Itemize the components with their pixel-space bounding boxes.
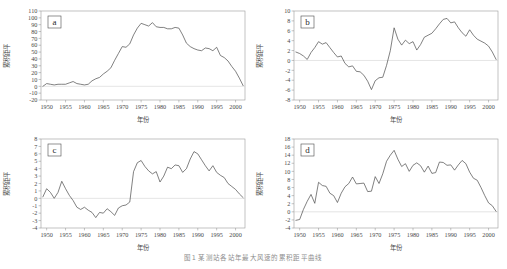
plot-frame bbox=[294, 11, 498, 100]
x-tick-label: 1980 bbox=[407, 103, 419, 110]
y-tick-label: 12 bbox=[284, 159, 290, 166]
y-tick-label: 4 bbox=[34, 165, 37, 172]
y-tick-label: -4 bbox=[32, 224, 37, 231]
x-tick-label: 1955 bbox=[59, 103, 71, 110]
y-tick-label: 0 bbox=[34, 83, 37, 90]
x-tick-label: 1975 bbox=[135, 231, 147, 238]
x-tick-label: 1990 bbox=[445, 231, 457, 238]
x-tick-label: 1985 bbox=[173, 103, 185, 110]
x-tick-label: 1960 bbox=[78, 231, 90, 238]
y-tick-label: 80 bbox=[31, 28, 37, 35]
x-tick-label: 2000 bbox=[229, 103, 241, 110]
x-tick-label: 1995 bbox=[210, 231, 222, 238]
x-tick-label: 1965 bbox=[97, 103, 109, 110]
y-tick-label: -8 bbox=[285, 96, 290, 103]
data-series-line bbox=[43, 23, 243, 87]
y-tick-label: 18 bbox=[284, 135, 290, 142]
x-tick-label: 1950 bbox=[40, 103, 52, 110]
y-tick-label: 10 bbox=[284, 7, 290, 14]
plot-frame bbox=[41, 139, 245, 228]
x-tick-label: 1990 bbox=[192, 103, 204, 110]
y-tick-label: 0 bbox=[34, 195, 37, 202]
x-tick-label: 1985 bbox=[173, 231, 185, 238]
panel-letter: c bbox=[53, 145, 57, 155]
y-tick-label: 90 bbox=[31, 21, 37, 28]
y-tick-label: 1 bbox=[34, 187, 37, 194]
x-tick-label: 1950 bbox=[293, 231, 305, 238]
x-tick-label: 1995 bbox=[463, 231, 475, 238]
x-tick-label: 1965 bbox=[97, 231, 109, 238]
y-tick-label: -20 bbox=[29, 96, 37, 103]
x-tick-label: 1990 bbox=[192, 231, 204, 238]
y-tick-label: 3 bbox=[34, 172, 37, 179]
x-tick-label: 1980 bbox=[154, 231, 166, 238]
y-tick-label: 110 bbox=[28, 7, 37, 14]
y-tick-label: 0 bbox=[287, 57, 290, 64]
y-tick-label: 14 bbox=[284, 151, 290, 158]
y-tick-label: 0 bbox=[287, 208, 290, 215]
y-tick-label: 8 bbox=[287, 176, 290, 183]
y-tick-label: 2 bbox=[287, 200, 290, 207]
y-tick-label: -2 bbox=[285, 67, 290, 74]
x-tick-label: 1985 bbox=[426, 103, 438, 110]
y-tick-label: -2 bbox=[32, 209, 37, 216]
y-tick-label: 2 bbox=[34, 180, 37, 187]
x-tick-label: 1990 bbox=[445, 103, 457, 110]
y-tick-label: 6 bbox=[34, 150, 37, 157]
x-tick-label: 1975 bbox=[388, 103, 400, 110]
y-tick-label: 6 bbox=[287, 27, 290, 34]
y-tick-label: -6 bbox=[285, 86, 290, 93]
x-tick-label: 1975 bbox=[388, 231, 400, 238]
panel-letter: d bbox=[305, 145, 310, 155]
chart-panel-a: -20-100102030405060708090100110195019551… bbox=[0, 2, 253, 126]
x-axis-label: 年份 bbox=[390, 243, 403, 252]
y-axis-label: 累积距平 bbox=[255, 171, 264, 196]
y-tick-label: 100 bbox=[28, 14, 37, 21]
x-axis-label: 年份 bbox=[137, 243, 150, 252]
y-tick-label: 30 bbox=[31, 62, 37, 69]
y-tick-label: 10 bbox=[31, 76, 37, 83]
data-series-line bbox=[296, 150, 496, 220]
x-tick-label: 1960 bbox=[78, 103, 90, 110]
x-tick-label: 2000 bbox=[482, 231, 494, 238]
x-tick-label: 1995 bbox=[463, 103, 475, 110]
x-tick-label: 1970 bbox=[116, 231, 128, 238]
y-tick-label: 2 bbox=[287, 47, 290, 54]
panel-letter: b bbox=[305, 17, 310, 27]
x-tick-label: 2000 bbox=[482, 103, 494, 110]
y-tick-label: 60 bbox=[31, 41, 37, 48]
y-tick-label: 10 bbox=[284, 168, 290, 175]
x-tick-label: 1965 bbox=[350, 103, 362, 110]
y-tick-label: 5 bbox=[34, 157, 37, 164]
x-tick-label: 1995 bbox=[210, 103, 222, 110]
y-tick-label: -1 bbox=[32, 202, 37, 209]
y-tick-label: -4 bbox=[285, 224, 290, 231]
x-tick-label: 1975 bbox=[135, 103, 147, 110]
x-tick-label: 1955 bbox=[312, 103, 324, 110]
y-tick-label: 16 bbox=[284, 143, 290, 150]
x-tick-label: 1980 bbox=[154, 103, 166, 110]
y-tick-label: -4 bbox=[285, 76, 290, 83]
y-tick-label: 50 bbox=[31, 48, 37, 55]
y-tick-label: 6 bbox=[287, 184, 290, 191]
y-tick-label: 8 bbox=[34, 135, 37, 142]
y-tick-label: 4 bbox=[287, 37, 290, 44]
x-axis-label: 年份 bbox=[137, 115, 150, 124]
y-axis-label: 累积距平 bbox=[2, 43, 11, 68]
x-axis-label: 年份 bbox=[390, 115, 403, 124]
y-tick-label: 20 bbox=[31, 69, 37, 76]
chart-panel-b: -8-6-4-202468101950195519601965197019751… bbox=[253, 2, 506, 126]
x-tick-label: 1985 bbox=[426, 231, 438, 238]
data-series-line bbox=[296, 18, 496, 89]
data-series-line bbox=[43, 152, 243, 218]
y-axis-label: 累积距平 bbox=[255, 43, 264, 68]
y-tick-label: -3 bbox=[32, 217, 37, 224]
y-tick-label: -2 bbox=[285, 216, 290, 223]
y-tick-label: 4 bbox=[287, 192, 290, 199]
y-tick-label: 7 bbox=[34, 143, 37, 150]
y-tick-label: 40 bbox=[31, 55, 37, 62]
figure-container: -20-100102030405060708090100110195019551… bbox=[0, 0, 507, 269]
x-tick-label: 1980 bbox=[407, 231, 419, 238]
figure-caption: 图1 某测站各站年最大风速的累积距平曲线 bbox=[0, 252, 507, 262]
y-tick-label: -10 bbox=[29, 89, 37, 96]
